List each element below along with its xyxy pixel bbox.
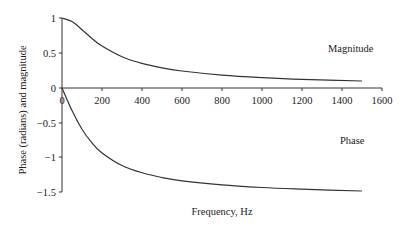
- x-tick-label: 1400: [332, 95, 353, 106]
- magnitude-label: Magnitude: [328, 43, 374, 54]
- x-tick-label: 800: [214, 95, 230, 106]
- x-tick-label: 600: [174, 95, 190, 106]
- x-tick-label: 200: [94, 95, 110, 106]
- y-tick-label: −0.5: [37, 118, 56, 129]
- y-tick-labels: 1 0.5 0 −0.5 −1 −1.5: [37, 13, 56, 198]
- y-tick-label: 1: [51, 13, 56, 24]
- y-axis-label: Phase (radians) and magnitude: [17, 45, 29, 175]
- phase-label: Phase: [340, 135, 365, 146]
- magnitude-curve: [62, 18, 362, 81]
- x-tick-label: 0: [59, 95, 64, 106]
- x-tick-label: 1600: [372, 95, 393, 106]
- y-tick-label: 0: [51, 83, 56, 94]
- y-tick-label: −1.5: [37, 187, 56, 198]
- x-axis-label: Frequency, Hz: [191, 206, 252, 217]
- y-tick-label: −1: [45, 152, 56, 163]
- x-tick-labels: 0 200 400 600 800 1000 1200 1400 1600: [59, 95, 392, 106]
- chart: 1 0.5 0 −0.5 −1 −1.5 0 200 400 600 800 1…: [0, 0, 416, 229]
- x-tick-label: 400: [134, 95, 150, 106]
- x-tick-label: 1000: [252, 95, 273, 106]
- y-tick-label: 0.5: [43, 48, 56, 59]
- x-tick-label: 1200: [292, 95, 313, 106]
